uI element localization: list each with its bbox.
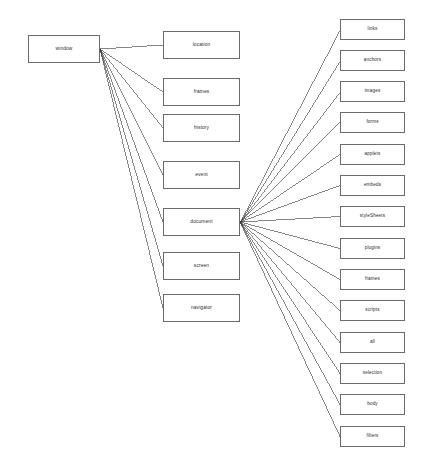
edge-window-to-history — [100, 49, 163, 128]
edge-window-to-event — [100, 49, 163, 175]
node-location[interactable]: location — [163, 31, 240, 59]
node-links[interactable]: links — [340, 19, 405, 40]
edge-window-to-frames — [100, 49, 163, 92]
node-all[interactable]: all — [340, 332, 405, 353]
node-filters-label: filters — [366, 434, 378, 439]
edge-window-to-document — [100, 49, 163, 222]
edge-document-to-styleSheets — [240, 217, 340, 223]
node-document-frames[interactable]: frames — [340, 269, 405, 290]
node-selection[interactable]: selection — [340, 363, 405, 384]
edge-document-to-forms — [240, 123, 340, 223]
edge-document-to-images — [240, 92, 340, 223]
edge-window-to-location — [100, 45, 163, 49]
node-all-label: all — [370, 340, 375, 345]
node-images-label: images — [365, 89, 381, 94]
dom-hierarchy-diagram: window location frames history event doc… — [0, 0, 431, 472]
node-navigator[interactable]: navigator — [163, 294, 240, 322]
edge-document-to-scripts — [240, 222, 340, 311]
node-scripts-label: scripts — [365, 308, 379, 313]
node-event-label: event — [195, 173, 208, 178]
node-body-label: body — [367, 402, 378, 407]
node-scripts[interactable]: scripts — [340, 300, 405, 321]
edge-document-to-embeds — [240, 186, 340, 223]
node-location-label: location — [193, 43, 211, 48]
node-event[interactable]: event — [163, 161, 240, 189]
node-forms-label: forms — [366, 120, 378, 125]
node-screen[interactable]: screen — [163, 252, 240, 280]
edge-document-to-links — [240, 30, 340, 223]
edge-window-to-screen — [100, 49, 163, 266]
node-screen-label: screen — [194, 264, 209, 269]
node-filters[interactable]: filters — [340, 426, 405, 447]
node-embeds-label: embeds — [364, 183, 381, 188]
node-document-frames-label: frames — [365, 277, 380, 282]
node-frames[interactable]: frames — [163, 78, 240, 106]
edge-document-to-selection — [240, 222, 340, 374]
node-images[interactable]: images — [340, 81, 405, 102]
node-plugins-label: plugins — [365, 246, 381, 251]
node-embeds[interactable]: embeds — [340, 175, 405, 196]
node-document-label: document — [190, 220, 212, 225]
node-window[interactable]: window — [28, 35, 100, 63]
edge-document-to-plugins — [240, 222, 340, 249]
node-navigator-label: navigator — [191, 306, 212, 311]
edge-window-to-navigator — [100, 49, 163, 308]
edge-document-to-all — [240, 222, 340, 343]
node-history[interactable]: history — [163, 114, 240, 142]
node-forms[interactable]: forms — [340, 112, 405, 133]
edge-document-to-body — [240, 222, 340, 405]
node-body[interactable]: body — [340, 394, 405, 415]
edge-document-to-applets — [240, 155, 340, 223]
node-stylesheets[interactable]: styleSheets — [340, 206, 405, 227]
node-window-label: window — [56, 47, 73, 52]
node-anchors[interactable]: anchors — [340, 50, 405, 71]
node-applets-label: applets — [365, 152, 381, 157]
edge-document-to-frames_doc — [240, 222, 340, 280]
node-selection-label: selection — [363, 371, 382, 376]
node-links-label: links — [368, 27, 378, 32]
node-stylesheets-label: styleSheets — [360, 214, 385, 219]
edge-document-to-filters — [240, 222, 340, 437]
node-plugins[interactable]: plugins — [340, 238, 405, 259]
node-document[interactable]: document — [163, 208, 240, 236]
node-anchors-label: anchors — [364, 58, 381, 63]
edge-document-to-anchors — [240, 61, 340, 223]
node-history-label: history — [194, 126, 209, 131]
node-frames-label: frames — [194, 90, 210, 95]
node-applets[interactable]: applets — [340, 144, 405, 165]
